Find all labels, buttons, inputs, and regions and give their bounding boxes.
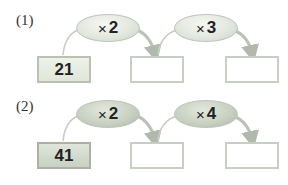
operand: 2: [109, 18, 118, 38]
operand: 4: [207, 104, 216, 124]
problem-2-operation-2: × 4: [174, 100, 238, 128]
problem-2-label: (2): [16, 98, 34, 115]
problem-2-answer-box-2[interactable]: [225, 142, 279, 169]
multiply-symbol: ×: [98, 20, 107, 37]
operand: 2: [109, 104, 118, 124]
multiply-symbol: ×: [196, 106, 205, 123]
problem-2-answer-box-1[interactable]: [130, 142, 184, 169]
problem-1-operation-1: × 2: [76, 14, 140, 42]
multiply-symbol: ×: [98, 106, 107, 123]
problem-1-operation-2: × 3: [174, 14, 238, 42]
problem-2-start-box: 41: [37, 142, 91, 169]
problem-1-label: (1): [16, 12, 34, 29]
problem-1-start-box: 21: [37, 56, 91, 83]
operand: 3: [207, 18, 216, 38]
multiply-symbol: ×: [196, 20, 205, 37]
problem-1-answer-box-2[interactable]: [225, 56, 279, 83]
problem-2-operation-1: × 2: [76, 100, 140, 128]
problem-1-answer-box-1[interactable]: [130, 56, 184, 83]
